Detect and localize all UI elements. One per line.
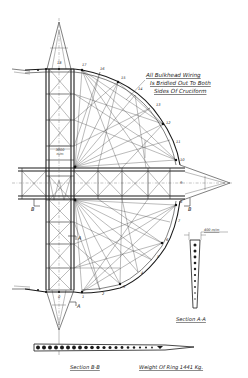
node-number-labels: 18 17 16 15 14 13 12 11 10 9 8 7 6 5 4 3…: [57, 61, 185, 299]
node-label-11: 11: [176, 140, 181, 144]
section-b-caption: Section B-B: [70, 364, 100, 370]
node-label-12: 12: [166, 121, 171, 125]
section-marker-a-upper: A: [77, 235, 82, 241]
note-line-1: All Bulkhead Wiring: [145, 72, 201, 79]
node-label-15: 15: [121, 76, 126, 80]
node-label-18: 18: [57, 61, 62, 65]
node-label-0: 0: [58, 295, 61, 299]
section-a-detail: 400 m/m Section A-A: [176, 228, 228, 322]
node-label-7: 7: [178, 219, 181, 223]
note-line-3: Sides Of Cruciform: [154, 88, 207, 94]
bulkhead-wiring-note: All Bulkhead Wiring Is Bridled Out To Bo…: [126, 72, 211, 100]
node-label-10: 10: [180, 158, 185, 162]
section-marker-b-left: B: [31, 206, 35, 212]
dimension-3000-value: 3000: [56, 148, 65, 152]
dimension-3000: 3000 m/m: [50, 148, 70, 157]
horizontal-cruciform-arm: [12, 165, 232, 201]
node-label-1: 1: [82, 295, 84, 299]
node-label-13: 13: [156, 103, 161, 107]
node-label-8: 8: [180, 200, 183, 204]
bulkhead-ring-drawing: 18 17 16 15 14 13 12 11 10 9 8 7 6 5 4 3…: [0, 0, 248, 378]
node-label-2: 2: [102, 292, 105, 296]
radial-wiring-lower: [74, 199, 176, 292]
section-marker-a-lower: A: [76, 303, 81, 309]
section-marker-b-right: B: [188, 206, 192, 212]
dimension-3000-unit: m/m: [57, 152, 64, 156]
note-line-2: Is Bridled Out To Both: [150, 80, 211, 86]
section-a-dimension: 400 m/m: [204, 228, 220, 232]
ring-weight-caption: Weight Of Ring 1441 Kg.: [139, 364, 203, 371]
section-a-caption: Section A-A: [176, 316, 206, 322]
section-b-detail: Section B-B Weight Of Ring 1441 Kg.: [34, 330, 203, 371]
node-label-17: 17: [82, 63, 87, 67]
node-label-16: 16: [100, 67, 105, 71]
node-label-14: 14: [138, 87, 143, 91]
outer-ring: [12, 69, 180, 293]
